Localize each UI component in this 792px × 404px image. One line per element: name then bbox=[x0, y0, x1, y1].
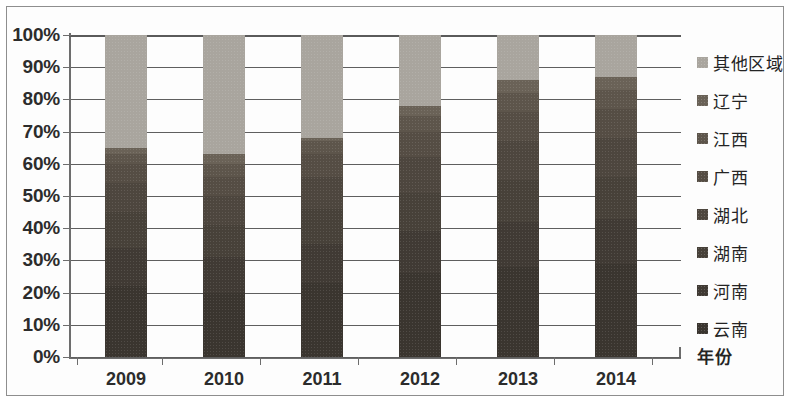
y-axis-tick-label: 100% bbox=[12, 24, 60, 46]
bar-stack[interactable] bbox=[399, 35, 441, 357]
bar-segment[interactable] bbox=[105, 148, 147, 154]
bar-segment[interactable] bbox=[301, 283, 343, 357]
bar-segment[interactable] bbox=[203, 164, 245, 177]
bar-stack[interactable] bbox=[301, 35, 343, 357]
legend-item[interactable]: 湖北 bbox=[697, 195, 792, 233]
bar-segment[interactable] bbox=[301, 141, 343, 154]
y-axis-tick-label: 70% bbox=[23, 120, 60, 142]
y-axis-tick bbox=[63, 35, 71, 36]
legend-label: 河南 bbox=[713, 278, 748, 303]
bar-stack[interactable] bbox=[105, 35, 147, 357]
bar-segment[interactable] bbox=[497, 267, 539, 357]
x-axis-tick bbox=[358, 357, 359, 365]
legend-swatch-icon bbox=[697, 95, 708, 106]
legend-swatch-icon bbox=[697, 209, 708, 220]
bar-segment[interactable] bbox=[497, 222, 539, 267]
bar-segment[interactable] bbox=[497, 141, 539, 180]
legend-item[interactable]: 湖南 bbox=[697, 233, 792, 271]
legend-label: 湖南 bbox=[713, 240, 748, 265]
legend-swatch-icon bbox=[697, 171, 708, 182]
x-axis-tick bbox=[260, 357, 261, 365]
y-axis-tick bbox=[63, 260, 71, 261]
bar-segment[interactable] bbox=[497, 112, 539, 141]
y-axis-tick-label: 50% bbox=[23, 185, 60, 207]
bar-segment[interactable] bbox=[595, 109, 637, 138]
gridline bbox=[69, 293, 681, 294]
bar-segment[interactable] bbox=[301, 35, 343, 138]
bar-segment[interactable] bbox=[399, 132, 441, 158]
bar-segment[interactable] bbox=[203, 177, 245, 196]
x-axis-tick-label: 2013 bbox=[498, 369, 538, 390]
bar-segment[interactable] bbox=[399, 157, 441, 192]
bar-segment[interactable] bbox=[203, 293, 245, 357]
bar-segment[interactable] bbox=[105, 164, 147, 183]
bar-segment[interactable] bbox=[105, 212, 147, 247]
x-axis-tick bbox=[77, 357, 78, 365]
bar-segment[interactable] bbox=[203, 154, 245, 164]
legend-label: 江西 bbox=[713, 126, 748, 151]
x-axis-tick bbox=[554, 357, 555, 365]
bar-segment[interactable] bbox=[399, 231, 441, 273]
legend-item[interactable]: 云南 bbox=[697, 309, 792, 347]
bar-segment[interactable] bbox=[497, 180, 539, 222]
y-axis-tick-label: 40% bbox=[23, 217, 60, 239]
x-axis-tick-label: 2014 bbox=[596, 369, 636, 390]
bar-segment[interactable] bbox=[105, 286, 147, 357]
bar-segment[interactable] bbox=[399, 116, 441, 132]
legend-swatch-icon bbox=[697, 247, 708, 258]
bar-segment[interactable] bbox=[301, 154, 343, 177]
x-axis-tick bbox=[162, 357, 163, 365]
legend-item[interactable]: 其他区域 bbox=[697, 43, 792, 81]
bar-segment[interactable] bbox=[399, 106, 441, 116]
y-axis-tick-label: 10% bbox=[23, 313, 60, 335]
bar-stack[interactable] bbox=[595, 35, 637, 357]
bar-segment[interactable] bbox=[105, 35, 147, 148]
y-axis-tick bbox=[63, 99, 71, 100]
legend-item[interactable]: 辽宁 bbox=[697, 81, 792, 119]
bar-segment[interactable] bbox=[203, 35, 245, 154]
legend-swatch-icon bbox=[697, 57, 708, 68]
legend-item[interactable]: 河南 bbox=[697, 271, 792, 309]
x-axis-tick-label: 2009 bbox=[106, 369, 146, 390]
bar-segment[interactable] bbox=[301, 244, 343, 283]
bar-segment[interactable] bbox=[497, 93, 539, 112]
y-axis-tick bbox=[63, 132, 71, 133]
bar-segment[interactable] bbox=[301, 209, 343, 244]
y-axis-tick-label: 80% bbox=[23, 88, 60, 110]
gridline bbox=[69, 164, 681, 165]
gridline bbox=[69, 132, 681, 133]
bar-stack[interactable] bbox=[497, 35, 539, 357]
y-axis-tick-label: 90% bbox=[23, 56, 60, 78]
bar-segment[interactable] bbox=[203, 257, 245, 292]
bar-segment[interactable] bbox=[497, 80, 539, 93]
gridline bbox=[69, 196, 681, 197]
y-axis-tick-label: 0% bbox=[33, 346, 60, 368]
bar-segment[interactable] bbox=[399, 273, 441, 357]
bar-stack[interactable] bbox=[203, 35, 245, 357]
y-axis-tick bbox=[63, 164, 71, 165]
y-axis-tick bbox=[63, 228, 71, 229]
bar-segment[interactable] bbox=[595, 77, 637, 90]
bar-segment[interactable] bbox=[595, 90, 637, 109]
chart-container: 0%10%20%30%40%50%60%70%80%90%100% 200920… bbox=[6, 6, 784, 396]
bar-segment[interactable] bbox=[203, 196, 245, 225]
bar-segment[interactable] bbox=[301, 177, 343, 209]
gridline bbox=[69, 325, 681, 326]
legend-swatch-icon bbox=[697, 133, 708, 144]
bar-segment[interactable] bbox=[595, 177, 637, 219]
bar-segment[interactable] bbox=[595, 138, 637, 177]
bar-segment[interactable] bbox=[595, 35, 637, 77]
bar-segment[interactable] bbox=[105, 183, 147, 212]
bar-segment[interactable] bbox=[105, 154, 147, 164]
bar-segment[interactable] bbox=[301, 138, 343, 141]
bar-segment[interactable] bbox=[105, 248, 147, 287]
legend-item[interactable]: 广西 bbox=[697, 157, 792, 195]
legend-item[interactable]: 江西 bbox=[697, 119, 792, 157]
bar-segment[interactable] bbox=[399, 193, 441, 232]
bar-segment[interactable] bbox=[595, 264, 637, 357]
bar-segment[interactable] bbox=[595, 219, 637, 264]
bar-segment[interactable] bbox=[497, 35, 539, 80]
gridline bbox=[69, 99, 681, 100]
bar-segment[interactable] bbox=[399, 35, 441, 106]
bar-segment[interactable] bbox=[203, 225, 245, 257]
